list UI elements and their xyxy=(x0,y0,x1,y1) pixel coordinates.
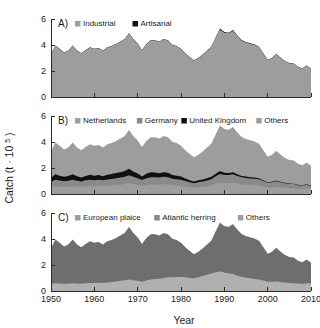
y-tick-label: 6 xyxy=(41,14,46,24)
legend-label: Others xyxy=(246,213,270,222)
legend-swatch xyxy=(181,118,187,124)
x-tick-label: 1950 xyxy=(41,294,61,304)
legend-label: Atlantic herring xyxy=(162,213,215,222)
y-tick-label: 2 xyxy=(41,260,46,270)
panels-group: 0246A)IndustrialArtisanal0246B)Netherlan… xyxy=(41,14,320,304)
y-axis-title: Catch (t · 10 5 ) xyxy=(3,132,15,203)
panel-tag: B) xyxy=(58,115,68,126)
y-tick-label: 2 xyxy=(41,163,46,173)
legend-swatch xyxy=(75,215,81,221)
y-tick-label: 4 xyxy=(41,40,46,50)
stacked-area-chart: 0246A)IndustrialArtisanal0246B)Netherlan… xyxy=(0,0,320,328)
y-axis-title-main: Catch (t xyxy=(3,167,15,204)
svg-text:Catch (t · 10: Catch (t · 10 5 ) xyxy=(3,132,15,203)
y-tick-label: 4 xyxy=(41,137,46,147)
x-tick-label: 1980 xyxy=(171,294,191,304)
panel-tag: A) xyxy=(58,18,68,29)
y-tick-label: 6 xyxy=(41,111,46,121)
x-tick-label: 1990 xyxy=(214,294,234,304)
y-axis-title-exponent: 5 xyxy=(4,139,11,143)
legend-swatch xyxy=(238,215,244,221)
legend-label: United Kingdom xyxy=(189,116,246,125)
legend-swatch xyxy=(137,118,143,124)
y-tick-label: 0 xyxy=(41,189,46,199)
y-tick-label: 6 xyxy=(41,208,46,218)
y-axis-title-close: ) xyxy=(3,132,15,136)
x-tick-label: 1970 xyxy=(128,294,148,304)
x-axis-title: Year xyxy=(173,314,195,326)
y-tick-label: 4 xyxy=(41,234,46,244)
x-tick-label: 2010 xyxy=(301,294,320,304)
y-axis-title-mult: · 10 xyxy=(3,146,15,164)
panel-tag: C) xyxy=(58,212,69,223)
legend-swatch xyxy=(75,21,81,27)
y-tick-label: 2 xyxy=(41,66,46,76)
legend-label: Netherlands xyxy=(83,116,126,125)
legend-label: Germany xyxy=(145,116,178,125)
legend-label: Industrial xyxy=(83,19,116,28)
legend-label: Artisanal xyxy=(141,19,172,28)
legend-label: European plaice xyxy=(83,213,141,222)
x-tick-label: 2000 xyxy=(258,294,278,304)
y-tick-label: 0 xyxy=(41,92,46,102)
legend-swatch xyxy=(256,118,262,124)
legend-swatch xyxy=(154,215,160,221)
figure-container: 0246A)IndustrialArtisanal0246B)Netherlan… xyxy=(0,0,320,328)
legend-swatch xyxy=(133,21,139,27)
legend-swatch xyxy=(75,118,81,124)
x-tick-label: 1960 xyxy=(84,294,104,304)
legend-label: Others xyxy=(264,116,288,125)
